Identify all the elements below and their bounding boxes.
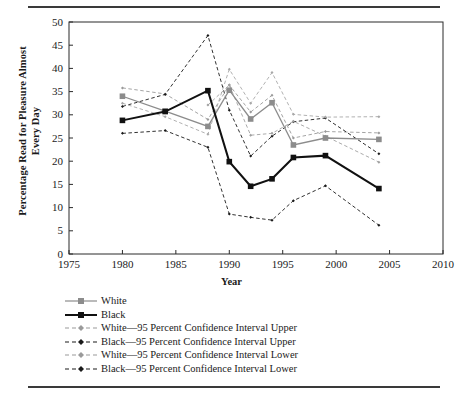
- chart-plot-area: 0510152025303540455019751980198519901995…: [0, 14, 463, 282]
- x-tick-label: 1975: [58, 258, 81, 270]
- top-rule: [28, 6, 440, 8]
- data-point-marker: [323, 135, 329, 141]
- data-point-marker: [248, 183, 254, 189]
- data-point-marker: [323, 153, 329, 159]
- legend-item-label: White—95 Percent Confidence Interval Low…: [98, 348, 298, 361]
- series-line: [122, 131, 378, 226]
- legend-item: Black: [64, 308, 394, 322]
- data-point-marker: [248, 116, 254, 122]
- data-point-marker: [164, 129, 167, 132]
- legend-key-icon: [64, 321, 98, 334]
- data-point-marker: [377, 161, 380, 164]
- data-point-marker: [228, 213, 231, 216]
- x-tick-label: 1980: [111, 258, 134, 270]
- legend-key-icon: [64, 362, 98, 375]
- legend-item: White—95 Percent Confidence Interval Upp…: [64, 321, 394, 335]
- data-point-marker: [376, 186, 382, 192]
- data-point-marker: [376, 137, 382, 143]
- y-tick-label: 40: [52, 62, 64, 74]
- chart-legend: WhiteBlackWhite—95 Percent Confidence In…: [64, 294, 394, 375]
- x-tick-label: 2000: [325, 258, 348, 270]
- data-point-marker: [271, 219, 274, 222]
- data-point-marker: [206, 146, 209, 149]
- legend-item-label: White—95 Percent Confidence Interval Upp…: [98, 321, 297, 334]
- x-tick-label: 1985: [165, 258, 188, 270]
- data-point-marker: [226, 159, 232, 165]
- data-point-marker: [377, 115, 380, 118]
- x-tick-label: 1995: [272, 258, 295, 270]
- data-point-marker: [324, 130, 327, 133]
- data-point-marker: [206, 133, 209, 136]
- legend-item-label: Black: [98, 308, 126, 321]
- data-point-marker: [121, 132, 124, 135]
- legend-key-icon: [64, 294, 98, 307]
- legend-key-icon: [64, 348, 98, 361]
- data-point-marker: [269, 176, 275, 182]
- legend-key-icon: [64, 308, 98, 321]
- y-tick-label: 45: [52, 39, 64, 51]
- data-point-marker: [228, 68, 231, 71]
- series-line: [122, 91, 378, 189]
- data-point-marker: [164, 115, 167, 118]
- legend-key-icon: [64, 335, 98, 348]
- data-point-marker: [205, 124, 211, 130]
- legend-item: Black—95 Percent Confidence Interval Low…: [64, 362, 394, 376]
- x-tick-label: 2005: [379, 258, 402, 270]
- data-point-marker: [121, 102, 124, 105]
- legend-item: White—95 Percent Confidence Interval Low…: [64, 348, 394, 362]
- data-point-marker: [249, 134, 252, 137]
- legend-item-label: Black—95 Percent Confidence Interval Low…: [98, 362, 297, 375]
- data-point-marker: [121, 86, 124, 89]
- data-point-marker: [377, 131, 380, 134]
- data-point-marker: [292, 113, 295, 116]
- y-tick-label: 35: [52, 85, 64, 97]
- chart-series: [121, 68, 380, 136]
- data-point-marker: [120, 93, 126, 99]
- legend-item: White: [64, 294, 394, 308]
- y-tick-label: 5: [58, 224, 64, 236]
- data-point-marker: [324, 184, 327, 187]
- y-tick-label: 50: [52, 16, 64, 28]
- data-point-marker: [269, 100, 275, 106]
- data-point-marker: [377, 152, 380, 155]
- data-point-marker: [291, 155, 297, 161]
- y-tick-label: 30: [52, 108, 64, 120]
- y-tick-label: 10: [52, 201, 64, 213]
- y-tick-label: 25: [52, 132, 64, 144]
- data-point-marker: [121, 105, 124, 108]
- data-point-marker: [205, 88, 211, 94]
- y-axis-title: Percentage Read for Pleasure Almost Ever…: [16, 36, 42, 226]
- data-point-marker: [120, 118, 126, 124]
- legend-item-label: White: [98, 294, 127, 307]
- data-point-marker: [291, 142, 297, 148]
- data-point-marker: [162, 109, 168, 115]
- line-chart-svg: 0510152025303540455019751980198519901995…: [0, 14, 463, 282]
- data-point-marker: [292, 137, 295, 140]
- legend-item-label: Black—95 Percent Confidence Interval Upp…: [98, 335, 296, 348]
- data-point-marker: [226, 87, 232, 93]
- data-point-marker: [249, 216, 252, 219]
- x-axis-title: Year: [0, 276, 463, 287]
- y-tick-label: 20: [52, 155, 64, 167]
- legend-item: Black—95 Percent Confidence Interval Upp…: [64, 335, 394, 349]
- x-tick-label: 1990: [218, 258, 241, 270]
- plot-frame: [69, 22, 443, 254]
- figure-container: 0510152025303540455019751980198519901995…: [0, 0, 463, 397]
- data-point-marker: [271, 132, 274, 135]
- bottom-rule: [28, 386, 440, 388]
- data-point-marker: [228, 109, 231, 112]
- x-tick-label: 2010: [432, 258, 455, 270]
- y-tick-label: 15: [52, 178, 64, 190]
